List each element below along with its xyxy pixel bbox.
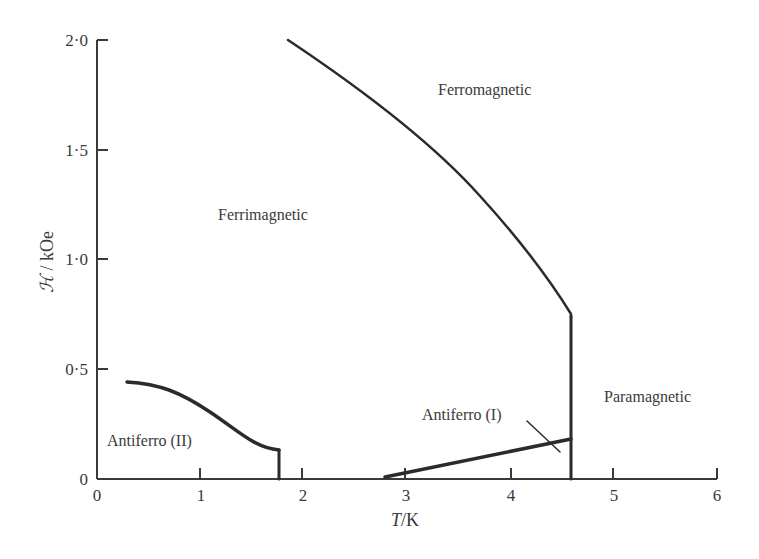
x-tick-label: 1 [197, 486, 206, 505]
region-label-ferromagnetic: Ferromagnetic [438, 81, 531, 99]
y-tick-label: 2·0 [65, 31, 88, 50]
antiferro-1-boundary [385, 439, 571, 477]
x-tick-labels: 0 1 2 3 4 5 6 [93, 486, 722, 505]
x-tick-label: 2 [299, 486, 308, 505]
y-tick-labels: 2·0 1·5 1·0 0·5 0 [65, 31, 88, 489]
axes [97, 40, 717, 479]
x-axis-title: T/K [391, 510, 419, 530]
region-label-paramagnetic: Paramagnetic [604, 388, 691, 406]
region-label-antiferro-1: Antiferro (I) [422, 406, 502, 424]
x-tick-label: 3 [402, 486, 411, 505]
y-tick-label: 0·5 [65, 360, 88, 379]
x-tick-label: 4 [507, 486, 516, 505]
region-labels: Ferromagnetic Ferrimagnetic Paramagnetic… [107, 81, 691, 450]
phase-boundaries [127, 40, 571, 479]
x-tick-label: 0 [93, 486, 102, 505]
y-axis-title: ℋ / kOe [37, 231, 57, 293]
y-tick-label: 1·0 [65, 250, 88, 269]
y-tick-label: 1·5 [65, 141, 88, 160]
x-tick-label: 6 [713, 486, 722, 505]
y-tick-label: 0 [80, 470, 89, 489]
region-label-antiferro-2: Antiferro (II) [107, 432, 192, 450]
y-axis-title-unit: / kOe [37, 231, 57, 275]
x-tick-label: 5 [610, 486, 619, 505]
phase-diagram-chart: 2·0 1·5 1·0 0·5 0 0 1 2 3 4 5 6 T/K ℋ / … [0, 0, 759, 559]
region-label-ferrimagnetic: Ferrimagnetic [218, 206, 308, 224]
x-axis-title-unit: /K [401, 510, 419, 530]
